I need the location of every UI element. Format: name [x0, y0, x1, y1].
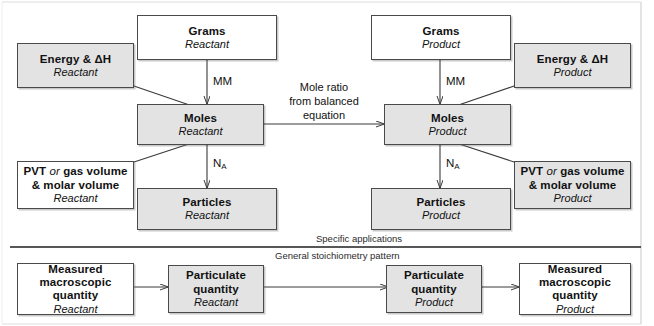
node-energy-reactant: Energy & ΔH Reactant: [17, 43, 134, 88]
node-title: Energy & ΔH: [537, 53, 608, 66]
node-grams-reactant: Grams Reactant: [137, 15, 277, 60]
node-title-line3: quantity: [552, 289, 598, 302]
edge-label-na-product: NA: [446, 156, 460, 170]
na-subscript: A: [454, 162, 459, 171]
pvt-text-or: or: [49, 165, 59, 177]
node-title: Moles: [431, 112, 464, 125]
node-subtitle: Product: [554, 66, 592, 79]
pvt-text-a: PVT: [24, 165, 50, 177]
pvt-text-b: gas volume: [557, 165, 625, 177]
node-particulate-reactant: Particulate quantity Reactant: [168, 265, 264, 313]
node-measured-product: Measured macroscopic quantity Product: [519, 263, 631, 315]
node-moles-product: Moles Product: [384, 104, 511, 145]
node-particles-reactant: Particles Reactant: [137, 188, 277, 230]
node-title-line1: Particulate: [404, 269, 464, 282]
node-subtitle: Reactant: [194, 296, 238, 309]
pvt-text-a: PVT: [521, 165, 547, 177]
node-title-line1: Particulate: [186, 269, 246, 282]
node-title-line2: macroscopic: [39, 276, 111, 289]
node-subtitle: Reactant: [178, 125, 222, 138]
node-title-line1: Measured: [48, 263, 103, 276]
node-subtitle: Reactant: [53, 66, 97, 79]
section-label-specific-applications: Specific applications: [316, 233, 402, 244]
mole-ratio-line2: from balanced: [282, 95, 366, 109]
node-title: Energy & ΔH: [40, 53, 111, 66]
edge-label-na-reactant: NA: [213, 156, 227, 170]
node-particulate-product: Particulate quantity Product: [386, 265, 482, 313]
node-moles-reactant: Moles Reactant: [137, 104, 264, 145]
na-subscript: A: [221, 162, 226, 171]
mole-ratio-line1: Mole ratio: [282, 81, 366, 95]
node-measured-reactant: Measured macroscopic quantity Reactant: [17, 263, 134, 315]
edge-label-mole-ratio: Mole ratio from balanced equation: [282, 81, 366, 122]
node-subtitle: Reactant: [53, 192, 97, 205]
node-title: Grams: [189, 25, 226, 38]
node-title-line2: macroscopic: [539, 276, 611, 289]
node-subtitle: Product: [422, 209, 460, 222]
node-subtitle: Product: [554, 192, 592, 205]
node-pvt-product: PVT or gas volume & molar volume Product: [514, 161, 631, 209]
node-title-line2: quantity: [411, 283, 457, 296]
node-title-line1: PVT or gas volume: [521, 165, 625, 178]
edge-label-mm-product: MM: [446, 74, 465, 88]
node-subtitle: Product: [556, 303, 594, 316]
node-title-line2: & molar volume: [32, 179, 120, 192]
node-title-line2: quantity: [193, 283, 239, 296]
node-pvt-reactant: PVT or gas volume & molar volume Reactan…: [17, 161, 134, 209]
node-energy-product: Energy & ΔH Product: [514, 43, 631, 88]
node-title-line1: PVT or gas volume: [24, 165, 128, 178]
node-subtitle: Product: [429, 125, 467, 138]
node-subtitle: Reactant: [185, 38, 229, 51]
node-grams-product: Grams Product: [371, 15, 511, 60]
node-title-line3: quantity: [53, 289, 99, 302]
node-title: Particles: [417, 196, 466, 209]
node-title: Particles: [183, 196, 232, 209]
node-subtitle: Product: [415, 296, 453, 309]
pvt-text-b: gas volume: [60, 165, 128, 177]
node-particles-product: Particles Product: [371, 188, 511, 230]
node-subtitle: Reactant: [53, 303, 97, 316]
node-title: Grams: [423, 25, 460, 38]
node-title: Moles: [184, 112, 217, 125]
edge-label-mm-reactant: MM: [213, 74, 232, 88]
section-label-general-pattern: General stoichiometry pattern: [275, 250, 400, 261]
mole-ratio-line3: equation: [282, 109, 366, 123]
stoichiometry-diagram: Grams Reactant Grams Product Energy & ΔH…: [0, 0, 654, 326]
node-title-line1: Measured: [548, 263, 603, 276]
node-subtitle: Reactant: [185, 209, 229, 222]
node-subtitle: Product: [422, 38, 460, 51]
node-title-line2: & molar volume: [529, 179, 617, 192]
pvt-text-or: or: [546, 165, 556, 177]
